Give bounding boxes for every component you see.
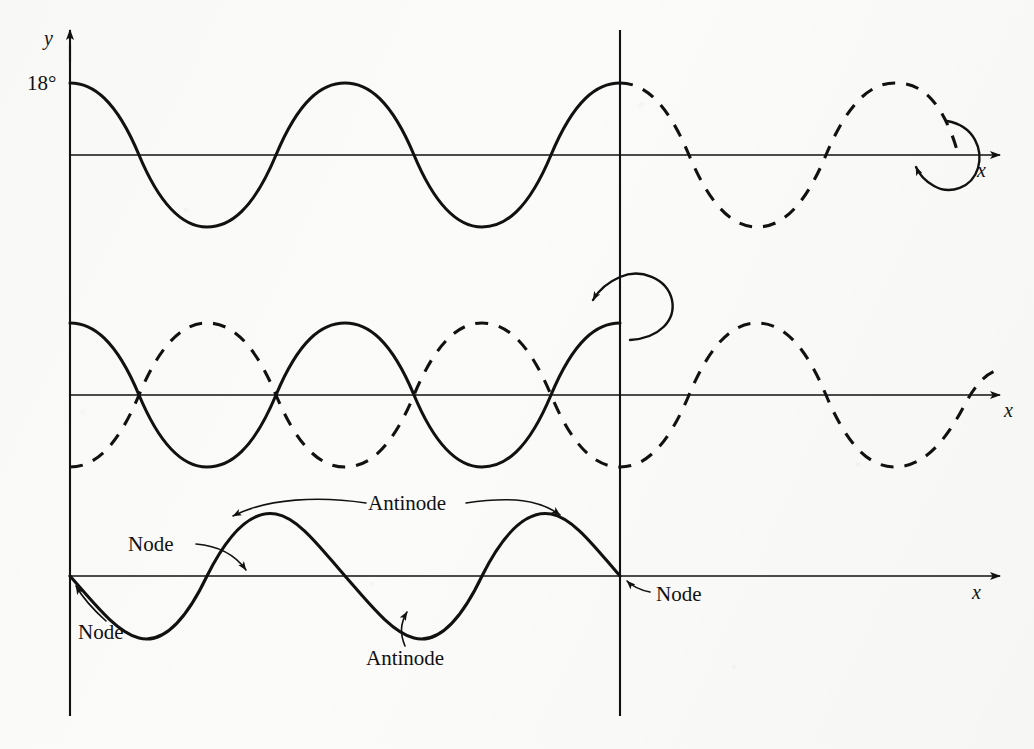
x-axis-label-bottom: x [972, 582, 981, 602]
wave-diagram-canvas [0, 0, 1034, 749]
amplitude-tick-label: 18° [27, 73, 56, 94]
leader-node-boundary [627, 581, 650, 592]
annotation-node-boundary: Node [656, 584, 702, 605]
wave-diagram-figure: y 18° x x x Node Node Node Antinode Anti… [0, 0, 1034, 749]
y-axis-label: y [44, 28, 53, 48]
annotation-node-first-zero: Node [128, 534, 174, 555]
annotation-antinode-trough: Antinode [366, 648, 444, 669]
leader-antinode-left-crest [233, 499, 366, 516]
leader-node-first-zero [196, 544, 246, 570]
panel-standing-wave [70, 499, 1000, 646]
panel-incident-wave [70, 83, 1000, 227]
x-axis-label-top: x [977, 160, 986, 180]
annotation-node-origin: Node [78, 622, 124, 643]
leader-node-origin [76, 586, 106, 621]
reflection-loop-arrow-middle [593, 274, 673, 340]
panel-incident-and-reflected [70, 274, 1000, 467]
boundary-walls [70, 30, 620, 716]
x-axis-label-middle: x [1004, 400, 1013, 420]
leader-antinode-trough [401, 612, 407, 646]
annotation-antinode-center: Antinode [368, 493, 446, 514]
